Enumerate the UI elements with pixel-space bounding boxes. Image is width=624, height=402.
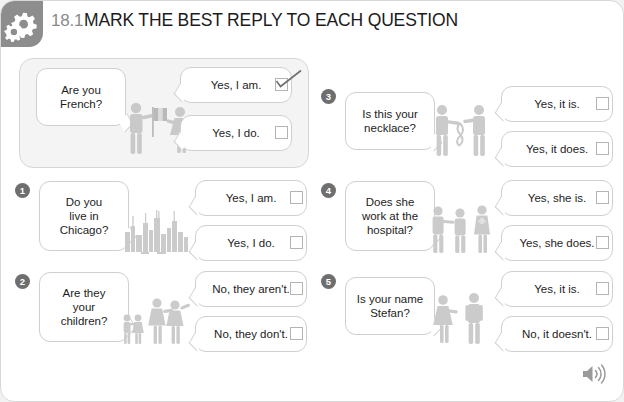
illustration-three-people-hospital xyxy=(427,200,497,254)
answer-checkbox-3-2[interactable] xyxy=(596,142,609,155)
page-title: MARK THE BEST REPLY TO EACH QUESTION xyxy=(84,10,458,31)
answer-checkbox-5-2[interactable] xyxy=(596,327,609,340)
example-block: Are youFrench? xyxy=(19,58,309,168)
answer-text-4-2: Yes, she does. xyxy=(519,236,594,250)
illustration-two-people-with-necklace xyxy=(427,98,495,160)
illustration-family-two-children-two-adults xyxy=(119,293,191,347)
question-text-3: Is this yournecklace? xyxy=(362,107,418,135)
item-number-2: 2 xyxy=(15,274,30,289)
answer-text-3-1: Yes, it is. xyxy=(534,97,580,111)
example-question-text: Are youFrench? xyxy=(60,83,102,111)
answer-text-5-2: No, it doesn't. xyxy=(522,327,592,341)
speaker-icon[interactable] xyxy=(581,363,607,389)
item-number-4: 4 xyxy=(321,183,336,198)
answer-text-1-2: Yes, I do. xyxy=(227,236,275,250)
answer-text-3-2: Yes, it does. xyxy=(526,142,588,156)
question-bubble-4: Does shework at thehospital? xyxy=(345,181,435,251)
example-question-bubble: Are youFrench? xyxy=(36,68,126,126)
answer-checkbox-2-1[interactable] xyxy=(290,282,303,295)
exercise-number: 18.1 xyxy=(51,11,83,31)
question-bubble-5: Is your nameStefan? xyxy=(345,277,435,335)
answer-text-4-1: Yes, she is. xyxy=(528,191,586,205)
item-number-1: 1 xyxy=(15,183,30,198)
question-text-1: Do youlive inChicago? xyxy=(60,195,109,237)
exercise-item-4: 4 Does shework at thehospital? xyxy=(321,178,617,266)
page-header: 18.1 MARK THE BEST REPLY TO EACH QUESTIO… xyxy=(1,1,624,47)
question-bubble-3: Is this yournecklace? xyxy=(345,92,435,150)
question-bubble-1: Do youlive inChicago? xyxy=(39,181,129,251)
answer-text-1-1: Yes, I am. xyxy=(226,191,277,205)
exercise-item-1: 1 Do youlive inChicago? xyxy=(15,178,311,266)
worksheet-page: 18.1 MARK THE BEST REPLY TO EACH QUESTIO… xyxy=(0,0,624,402)
answer-checkbox-4-1[interactable] xyxy=(596,191,609,204)
exercise-item-3: 3 Is this yournecklace? xyxy=(321,84,617,172)
question-bubble-2: Are theyyourchildren? xyxy=(39,272,129,342)
answer-checkbox-3-1[interactable] xyxy=(596,97,609,110)
answer-checkbox-2-2[interactable] xyxy=(290,327,303,340)
gears-icon xyxy=(1,1,43,47)
item-number-3: 3 xyxy=(321,89,336,104)
example-answer-text-1: Yes, I am. xyxy=(211,78,262,92)
example-checkbox-2[interactable] xyxy=(275,126,288,139)
answer-checkbox-1-1[interactable] xyxy=(290,191,303,204)
answer-text-5-1: Yes, it is. xyxy=(534,282,580,296)
answer-checkbox-1-2[interactable] xyxy=(290,236,303,249)
question-text-4: Does shework at thehospital? xyxy=(362,195,418,237)
answer-text-2-2: No, they don't. xyxy=(214,327,288,341)
exercise-item-2: 2 Are theyyourchildren? xyxy=(15,269,311,357)
illustration-chicago-skyline xyxy=(123,202,189,254)
question-text-5: Is your nameStefan? xyxy=(357,292,423,320)
illustration-woman-and-man-talking xyxy=(429,289,495,345)
answer-checkbox-5-1[interactable] xyxy=(596,282,609,295)
example-checkbox-1[interactable] xyxy=(275,78,288,91)
item-number-5: 5 xyxy=(321,274,336,289)
exercise-item-5: 5 Is your nameStefan? xyxy=(321,269,617,357)
answer-text-2-1: No, they aren't. xyxy=(212,282,290,296)
answer-checkbox-4-2[interactable] xyxy=(596,236,609,249)
question-text-2: Are theyyourchildren? xyxy=(61,286,108,328)
example-answer-text-2: Yes, I do. xyxy=(212,126,260,140)
